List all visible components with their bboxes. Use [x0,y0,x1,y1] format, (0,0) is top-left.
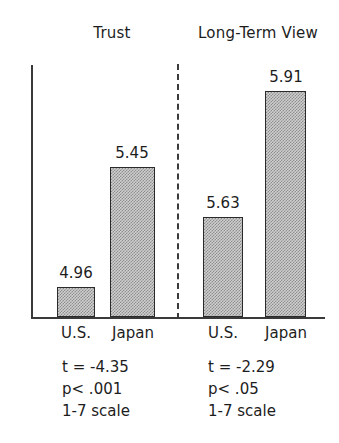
stat-t-value-trust: t = -4.35 [62,356,130,378]
bar-trust-japan [110,167,155,317]
stat-p-value-long-term-view: p< .05 [208,378,276,400]
stat-scale-long-term-view: 1-7 scale [208,400,276,422]
stat-p-value-trust: p< .001 [62,378,130,400]
bar-long-term-view-us [203,217,243,317]
category-label-long-term-view-us: U.S. [208,324,238,342]
bar-trust-us [57,287,95,317]
bar-value-long-term-view-us: 5.63 [206,194,239,212]
bar-chart-figure: Trust Long-Term View 4.96 5.45 5.63 5.91… [0,0,339,443]
stats-block-long-term-view: t = -2.29 p< .05 1-7 scale [208,356,276,422]
panel-title-long-term-view: Long-Term View [198,24,318,42]
category-label-trust-us: U.S. [61,324,91,342]
y-axis-line [31,65,33,319]
panel-divider-dashed-line [177,64,179,319]
panel-title-trust: Trust [93,24,130,42]
category-label-long-term-view-japan: Japan [265,324,307,342]
bar-value-trust-us: 4.96 [59,264,92,282]
stat-t-value-long-term-view: t = -2.29 [208,356,276,378]
bar-value-long-term-view-japan: 5.91 [269,68,302,86]
category-label-trust-japan: Japan [112,324,154,342]
bar-long-term-view-japan [265,91,306,317]
stat-scale-trust: 1-7 scale [62,400,130,422]
bar-value-trust-japan: 5.45 [115,144,148,162]
stats-block-trust: t = -4.35 p< .001 1-7 scale [62,356,130,422]
